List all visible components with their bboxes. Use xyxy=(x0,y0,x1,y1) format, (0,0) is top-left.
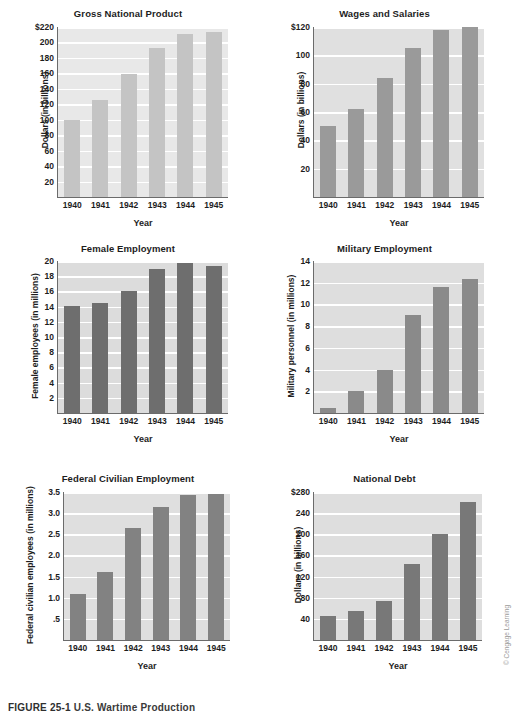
y-axis-tick-label: 2 xyxy=(49,393,54,403)
y-axis-tick-label: 2.5 xyxy=(48,529,60,539)
bar xyxy=(462,27,478,197)
x-axis-tick-label: 1940 xyxy=(63,200,82,210)
x-axis-label: Year xyxy=(64,661,230,671)
bar xyxy=(405,315,421,413)
x-axis-tick-label: 1942 xyxy=(375,643,394,653)
x-axis-tick-label: 1945 xyxy=(204,416,223,426)
y-axis-tick-label: 10 xyxy=(301,299,310,309)
bar xyxy=(432,534,448,640)
x-axis-tick-label: 1943 xyxy=(404,200,423,210)
x-axis-label: Year xyxy=(314,661,482,671)
bar xyxy=(348,391,364,413)
plot-wrap: .51.01.52.02.53.03.519401941194219431944… xyxy=(64,492,230,640)
plot-wrap: 2468101214194019411942194319441945 xyxy=(314,261,484,413)
x-axis-label: Year xyxy=(58,434,228,444)
x-axis-tick-label: 1940 xyxy=(63,416,82,426)
y-axis-tick-label: 18 xyxy=(45,271,54,281)
figure-caption-label: FIGURE 25-1 xyxy=(8,702,71,713)
y-axis-tick-label: 3.5 xyxy=(48,487,60,497)
y-axis-tick-label: 6 xyxy=(49,362,54,372)
x-axis-tick-label: 1943 xyxy=(148,200,167,210)
y-axis-tick-label: 4 xyxy=(305,365,310,375)
y-axis-label: Dollars (in billions) xyxy=(293,480,303,650)
x-axis-tick-label: 1945 xyxy=(459,643,478,653)
chart-title: Wages and Salaries xyxy=(256,8,513,19)
x-axis-line xyxy=(57,413,228,414)
bar xyxy=(64,120,80,197)
x-axis-tick-label: 1941 xyxy=(347,200,366,210)
bar-series xyxy=(314,492,482,640)
y-axis-tick-label: 2 xyxy=(305,386,310,396)
x-axis-line xyxy=(313,197,484,198)
plot-wrap: 20406080100$120194019411942194319441945 xyxy=(314,27,484,197)
x-axis-label: Year xyxy=(314,434,484,444)
x-axis-tick-label: 1942 xyxy=(375,200,394,210)
y-axis-label: Dollars (in billions) xyxy=(40,25,50,195)
bar xyxy=(320,408,336,413)
bar xyxy=(70,594,86,641)
x-axis-tick-label: 1944 xyxy=(432,200,451,210)
x-axis-tick-label: 1941 xyxy=(96,643,115,653)
bar xyxy=(177,263,193,413)
bar xyxy=(320,126,336,197)
chart-cell-federal-civilian-employment: Federal Civilian Employment .51.01.52.02… xyxy=(0,465,256,710)
y-axis-tick-label: 1.5 xyxy=(48,572,60,582)
y-axis-tick-label: 12 xyxy=(45,317,54,327)
x-axis-line xyxy=(313,413,484,414)
chart-cell-wages-and-salaries: Wages and Salaries 20406080100$120194019… xyxy=(256,0,513,235)
x-axis-label: Year xyxy=(58,218,228,228)
x-axis-tick-label: 1940 xyxy=(319,200,338,210)
y-axis-tick-label: 8 xyxy=(305,321,310,331)
x-axis-tick-label: 1940 xyxy=(68,643,87,653)
x-axis-tick-label: 1944 xyxy=(176,416,195,426)
x-axis-line xyxy=(313,640,482,641)
bar xyxy=(462,279,478,413)
y-axis-tick-label: 1.0 xyxy=(48,593,60,603)
bar xyxy=(92,303,108,413)
x-axis-label: Year xyxy=(314,218,484,228)
x-axis-line xyxy=(63,640,230,641)
bar xyxy=(125,528,141,640)
chart-title: Gross National Product xyxy=(0,8,256,19)
bar xyxy=(208,494,224,640)
bar xyxy=(460,502,476,640)
x-axis-tick-label: 1942 xyxy=(119,200,138,210)
x-axis-tick-label: 1945 xyxy=(460,200,479,210)
y-axis-tick-label: 6 xyxy=(305,343,310,353)
bar xyxy=(320,616,336,640)
x-axis-tick-label: 1944 xyxy=(432,416,451,426)
chart-cell-female-employment: Female Employment 2468101214161820194019… xyxy=(0,235,256,465)
x-axis-tick-label: 1944 xyxy=(176,200,195,210)
bar xyxy=(153,507,169,640)
y-axis-tick-label: 14 xyxy=(45,302,54,312)
bar xyxy=(121,74,137,197)
x-axis-tick-label: 1943 xyxy=(404,416,423,426)
y-axis-label: Female employees (in millions) xyxy=(30,251,40,421)
bar-series xyxy=(58,27,228,197)
x-axis-tick-label: 1941 xyxy=(347,643,366,653)
x-axis-tick-label: 1943 xyxy=(148,416,167,426)
bar xyxy=(404,564,420,640)
x-axis-tick-label: 1941 xyxy=(91,416,110,426)
bar-series xyxy=(58,261,228,413)
bar xyxy=(376,601,392,640)
x-axis-tick-label: 1944 xyxy=(179,643,198,653)
x-axis-tick-label: 1945 xyxy=(204,200,223,210)
x-axis-tick-label: 1943 xyxy=(403,643,422,653)
copyright-credit: © Cengage Learning xyxy=(499,580,513,690)
bar xyxy=(177,34,193,197)
x-axis-tick-label: 1945 xyxy=(460,416,479,426)
plot-wrap: 2468101214161820194019411942194319441945 xyxy=(58,261,228,413)
x-axis-tick-label: 1941 xyxy=(91,200,110,210)
bar xyxy=(348,109,364,197)
x-axis-tick-label: 1943 xyxy=(151,643,170,653)
y-axis-label: Military personnel (in millions) xyxy=(286,251,296,421)
y-axis-tick-label: .5 xyxy=(53,614,60,624)
x-axis-tick-label: 1942 xyxy=(124,643,143,653)
bar xyxy=(180,495,196,640)
bar xyxy=(206,266,222,413)
chart-cell-gross-national-product: Gross National Product 20406080100120140… xyxy=(0,0,256,235)
bar xyxy=(377,78,393,197)
y-axis-label: Dollars (in billions) xyxy=(296,25,306,195)
